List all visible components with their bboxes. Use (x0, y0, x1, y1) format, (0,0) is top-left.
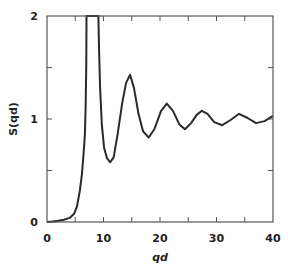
y-axis-label: S(qd) (7, 102, 20, 136)
x-axis-label: qd (152, 251, 168, 264)
x-tick-label: 10 (96, 232, 112, 245)
x-axis-label-text: qd (152, 251, 168, 264)
axis-ticks (47, 16, 273, 222)
y-tick-label: 2 (30, 10, 38, 23)
x-tick-label: 20 (152, 232, 168, 245)
structure-factor-chart: 010203040012 qd S(qd) (0, 0, 288, 269)
x-tick-label: 0 (43, 232, 51, 245)
plot-frame (47, 16, 273, 222)
x-tick-label: 40 (265, 232, 281, 245)
x-tick-label: 30 (209, 232, 225, 245)
structure-factor-curve (47, 16, 273, 222)
plot-area (47, 16, 273, 222)
y-axis-label-text: S(qd) (7, 102, 20, 136)
y-tick-label: 1 (30, 113, 38, 126)
y-tick-label: 0 (30, 216, 38, 229)
